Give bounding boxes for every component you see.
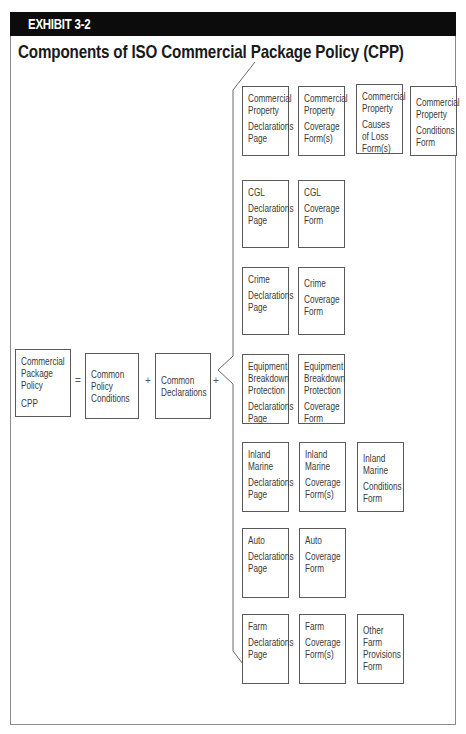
box-line: Inland <box>248 448 279 460</box>
box-line: Page <box>248 648 279 660</box>
commercial-property-box: CommercialPropertyCausesof LossForm(s) <box>356 84 403 154</box>
box-line: Provisions <box>363 648 394 660</box>
box-line: of Loss <box>362 130 393 142</box>
box-line: Breakdown <box>304 372 335 384</box>
box-line: Coverage <box>305 636 336 648</box>
box-line: Form <box>363 660 394 672</box>
box-line: Declarations <box>248 289 279 301</box>
cgl-box: CGLCoverageForm <box>298 180 345 248</box>
box-line: Form(s) <box>305 648 336 660</box>
box-line: CGL <box>248 186 279 198</box>
box-line: Page <box>248 488 279 500</box>
box-line: Coverage <box>304 293 335 305</box>
box-line: Conditions <box>91 392 128 404</box>
box-line: Coverage <box>304 400 335 412</box>
box-line: Marine <box>305 460 336 472</box>
farm-box: OtherFarmProvisionsForm <box>357 614 404 684</box>
box-line: Commercial <box>362 90 393 102</box>
auto-box: AutoCoverageForm <box>299 528 346 598</box>
box-line: Commercial <box>416 96 447 108</box>
box-line: Coverage <box>305 550 336 562</box>
common-policy-conditions-box: Common Policy Conditions <box>85 353 139 419</box>
box-line: Commercial <box>248 92 279 104</box>
farm-box: FarmCoverageForm(s) <box>299 614 346 684</box>
box-line: Breakdown <box>248 372 279 384</box>
box-line: Inland <box>363 452 394 464</box>
farm-box: FarmDeclarationsPage <box>242 614 289 684</box>
box-line: Form <box>304 412 335 424</box>
crime-box: CrimeDeclarationsPage <box>242 267 289 335</box>
box-line: Form <box>304 305 335 317</box>
box-line: Page <box>248 214 279 226</box>
cpp-line: Package <box>21 367 59 379</box>
box-line: Marine <box>363 464 394 476</box>
cpp-box: Commercial Package Policy CPP <box>15 349 71 417</box>
cgl-box: CGLDeclarationsPage <box>242 180 289 248</box>
box-line: Conditions <box>416 124 447 136</box>
box-line: Commercial <box>304 92 335 104</box>
box-line: Conditions <box>363 480 394 492</box>
commercial-property-box: CommercialPropertyDeclarationsPage <box>242 86 289 156</box>
box-line: Farm <box>363 636 394 648</box>
equipment-breakdown-box: EquipmentBreakdownProtectionDeclarations… <box>242 354 289 424</box>
inland-marine-box: InlandMarineCoverageForm(s) <box>299 442 346 512</box>
box-line: Auto <box>305 534 336 546</box>
box-line: Crime <box>248 273 279 285</box>
box-line: Declarations <box>248 120 279 132</box>
commercial-property-box: CommercialPropertyCoverageForm(s) <box>298 86 345 156</box>
crime-box: CrimeCoverageForm <box>298 267 345 335</box>
box-line: Equipment <box>304 360 335 372</box>
auto-box: AutoDeclarationsPage <box>242 528 289 598</box>
box-line: Declarations <box>248 636 279 648</box>
box-line: Declarations <box>161 386 199 398</box>
box-line: Farm <box>248 620 279 632</box>
plus-sign: + <box>145 375 151 386</box>
cpp-abbr: CPP <box>21 397 59 409</box>
box-line: Coverage <box>305 476 336 488</box>
box-line: Policy <box>91 380 128 392</box>
cpp-line: Commercial <box>21 355 59 367</box>
box-line: Page <box>248 132 279 144</box>
box-line: Common <box>161 374 199 386</box>
box-line: Causes <box>362 118 393 130</box>
plus-sign: + <box>213 375 219 386</box>
box-line: Farm <box>305 620 336 632</box>
box-line: Form <box>363 492 394 504</box>
box-line: Page <box>248 301 279 313</box>
box-line: Declarations <box>248 400 279 412</box>
box-line: Protection <box>304 384 335 396</box>
box-line: Form(s) <box>304 132 335 144</box>
inland-marine-box: InlandMarineDeclarationsPage <box>242 442 289 512</box>
box-line: Coverage <box>304 202 335 214</box>
box-line: Declarations <box>248 476 279 488</box>
box-line: Page <box>248 412 279 424</box>
equals-sign: = <box>75 375 81 386</box>
box-line: Common <box>91 368 128 380</box>
equipment-breakdown-box: EquipmentBreakdownProtectionCoverageForm <box>298 354 345 424</box>
box-line: Auto <box>248 534 279 546</box>
box-line: Form(s) <box>305 488 336 500</box>
inland-marine-box: InlandMarineConditionsForm <box>357 442 404 512</box>
commercial-property-box: CommercialPropertyConditionsForm <box>410 86 457 156</box>
box-line: Other <box>363 624 394 636</box>
box-line: Form <box>305 562 336 574</box>
box-line: Page <box>248 562 279 574</box>
box-line: Declarations <box>248 202 279 214</box>
box-line: Property <box>304 104 335 116</box>
box-line: Form <box>416 136 447 148</box>
box-line: Crime <box>304 277 335 289</box>
box-line: Protection <box>248 384 279 396</box>
box-line: Property <box>416 108 447 120</box>
box-line: Form(s) <box>362 142 393 154</box>
box-line: Coverage <box>304 120 335 132</box>
common-declarations-box: Common Declarations <box>155 353 211 419</box>
box-line: CGL <box>304 186 335 198</box>
box-line: Property <box>362 102 393 114</box>
box-line: Form <box>304 214 335 226</box>
box-line: Inland <box>305 448 336 460</box>
cpp-line: Policy <box>21 379 59 391</box>
box-line: Equipment <box>248 360 279 372</box>
box-line: Property <box>248 104 279 116</box>
box-line: Declarations <box>248 550 279 562</box>
box-line: Marine <box>248 460 279 472</box>
